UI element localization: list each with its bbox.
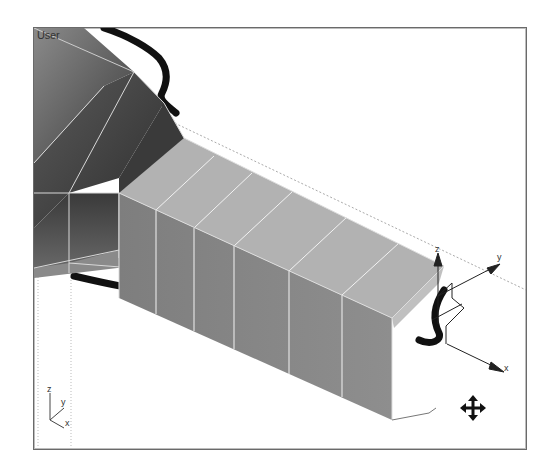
gizmo-y-label: y xyxy=(497,252,502,262)
world-x-label: x xyxy=(65,418,70,428)
box-object[interactable] xyxy=(119,138,444,420)
move-cursor-icon xyxy=(460,395,486,421)
scene-canvas[interactable]: z y x z y x xyxy=(34,28,526,449)
transform-gizmo[interactable]: z y x xyxy=(432,244,509,373)
gizmo-z-label: z xyxy=(435,244,440,254)
world-axis-tripod: z y x xyxy=(47,384,70,428)
world-y-label: y xyxy=(61,397,66,407)
gizmo-x-label: x xyxy=(504,363,509,373)
viewport-user[interactable]: User xyxy=(33,27,527,450)
world-z-label: z xyxy=(47,384,52,394)
viewport-label[interactable]: User xyxy=(37,29,59,41)
